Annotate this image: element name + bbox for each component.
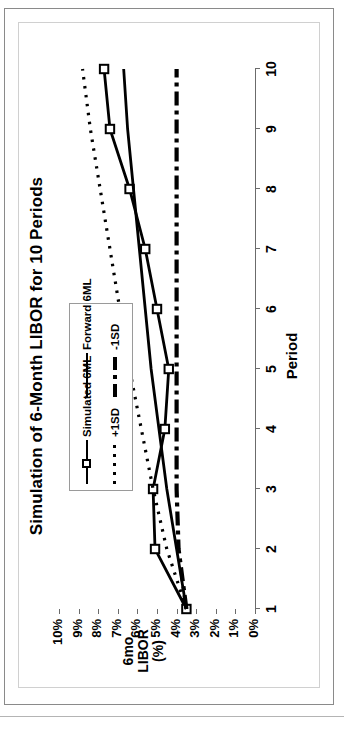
x-tick — [255, 248, 260, 249]
y-axis-title-line: LIBOR — [136, 619, 151, 683]
legend-key-forward-6ml-icon — [80, 353, 94, 397]
x-tick-label: 5 — [263, 349, 279, 389]
legend-item-plus-1sd: +1SD — [108, 397, 122, 484]
page-bottom-edge — [0, 716, 344, 717]
y-tick-label: 8% — [89, 619, 104, 675]
legend-label-minus-1sd: -1SD — [109, 324, 121, 350]
y-tick — [98, 609, 99, 614]
x-tick-label: 8 — [263, 169, 279, 209]
legend-item-simulated-6ml: Simulated 6ML — [80, 397, 94, 484]
series-line-1sd — [177, 69, 187, 609]
x-tick — [255, 488, 260, 489]
chart-container: Simulation of 6-Month LIBOR for 10 Perio… — [18, 22, 320, 688]
legend-item-forward-6ml: Forward 6ML — [80, 310, 94, 397]
y-axis-title-line: (%) — [151, 619, 166, 683]
data-point-marker — [153, 305, 161, 313]
y-tick — [235, 609, 236, 614]
data-point-marker — [106, 125, 114, 133]
y-tick-label: 10% — [50, 619, 65, 675]
x-tick — [255, 188, 260, 189]
x-tick-label: 4 — [263, 409, 279, 449]
legend-key-simulated-6ml-icon — [80, 440, 94, 484]
y-tick — [79, 609, 80, 614]
y-tick — [137, 609, 138, 614]
y-tick — [157, 609, 158, 614]
x-tick-label: 10 — [263, 49, 279, 89]
y-tick-label: 1% — [226, 619, 241, 675]
legend-key-minus-1sd-icon — [108, 353, 122, 397]
rotated-chart: Simulation of 6-Month LIBOR for 10 Perio… — [25, 31, 315, 681]
x-tick — [255, 428, 260, 429]
data-point-marker — [165, 365, 173, 373]
x-tick — [255, 68, 260, 69]
x-tick-label: 6 — [263, 289, 279, 329]
x-tick-label: 2 — [263, 529, 279, 569]
legend-row: Simulated 6ML Forward 6ML — [73, 310, 101, 484]
y-tick — [216, 609, 217, 614]
data-point-marker — [141, 245, 149, 253]
y-tick — [196, 609, 197, 614]
x-tick — [255, 368, 260, 369]
y-tick — [59, 609, 60, 614]
y-axis-title-line: 6mo — [121, 619, 136, 683]
legend-key-plus-1sd-icon — [108, 440, 122, 484]
y-tick-label: 4% — [168, 619, 183, 675]
x-tick — [255, 128, 260, 129]
x-tick-label: 9 — [263, 109, 279, 149]
x-axis-title: Period — [283, 31, 300, 681]
y-axis-title: 6moLIBOR(%) — [121, 619, 166, 683]
x-tick-label: 7 — [263, 229, 279, 269]
y-tick — [177, 609, 178, 614]
y-tick — [118, 609, 119, 614]
data-point-marker — [100, 65, 108, 73]
x-tick-label: 3 — [263, 469, 279, 509]
x-tick — [255, 548, 260, 549]
legend-label-forward-6ml: Forward 6ML — [81, 278, 93, 350]
scanned-page: Simulation of 6-Month LIBOR for 10 Perio… — [0, 0, 344, 729]
chart-legend: Simulated 6ML Forward 6ML +1SD -1SD — [69, 303, 133, 491]
data-point-marker — [151, 545, 159, 553]
y-tick-label: 0% — [246, 619, 261, 675]
x-tick-label: 1 — [263, 589, 279, 629]
y-tick-label: 2% — [207, 619, 222, 675]
legend-label-plus-1sd: +1SD — [109, 408, 121, 437]
legend-item-minus-1sd: -1SD — [108, 310, 122, 397]
legend-row: +1SD -1SD — [101, 310, 129, 484]
y-tick — [255, 609, 256, 614]
x-tick — [255, 308, 260, 309]
y-tick-label: 9% — [70, 619, 85, 675]
y-tick-label: 3% — [187, 619, 202, 675]
data-point-marker — [161, 425, 169, 433]
